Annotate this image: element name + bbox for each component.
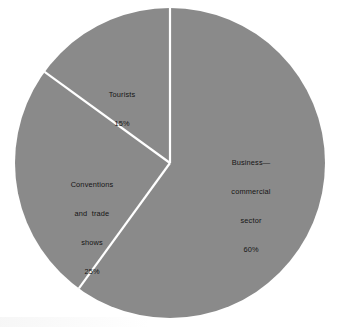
slice-value-business: 60% xyxy=(205,245,297,255)
slice-label-business-line1: Business— xyxy=(205,158,297,168)
slice-label-tourists-line1: Tourists xyxy=(82,90,162,100)
slice-label-conventions-line2: and trade xyxy=(42,209,142,219)
slice-label-conventions-line1: Conventions xyxy=(42,180,142,190)
slice-label-conventions: Conventions and trade shows 25% xyxy=(42,161,142,295)
slice-label-conventions-line3: shows xyxy=(42,238,142,248)
slice-value-tourists: 15% xyxy=(82,119,162,129)
pie-chart-figure: Business— commercial sector 60% Tourists… xyxy=(0,0,339,327)
slice-label-business: Business— commercial sector 60% xyxy=(205,139,297,273)
slice-label-tourists: Tourists 15% xyxy=(82,71,162,148)
slice-value-conventions: 25% xyxy=(42,267,142,277)
slice-label-business-line3: sector xyxy=(205,216,297,226)
slice-label-business-line2: commercial xyxy=(205,187,297,197)
